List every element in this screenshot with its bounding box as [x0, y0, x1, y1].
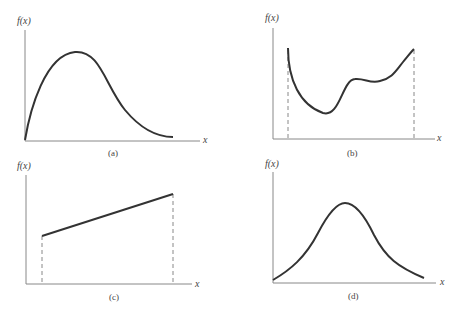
panel-caption: (a)	[108, 148, 118, 158]
y-axis-label: f(x)	[265, 12, 280, 24]
y-axis-label: f(x)	[17, 15, 32, 27]
curve	[273, 203, 424, 280]
figure: f(x) x (a) f(x) x (b) f(x) x (c) f(x) x …	[0, 0, 462, 311]
curve	[25, 52, 173, 140]
panel-b: f(x) x (b)	[265, 12, 442, 158]
x-axis-label: x	[194, 278, 200, 289]
x-axis-label: x	[436, 132, 442, 143]
x-axis-label: x	[202, 134, 208, 145]
panel-caption: (b)	[347, 148, 358, 158]
panel-a: f(x) x (a)	[17, 15, 208, 158]
panel-c: f(x) x (c)	[17, 160, 200, 302]
y-axis-label: f(x)	[265, 158, 280, 170]
panel-caption: (d)	[348, 291, 359, 301]
curve	[288, 48, 414, 113]
curve	[42, 194, 173, 236]
x-axis-label: x	[439, 276, 445, 287]
y-axis-label: f(x)	[17, 160, 32, 172]
panel-d: f(x) x (d)	[265, 158, 445, 301]
panel-caption: (c)	[109, 292, 119, 302]
